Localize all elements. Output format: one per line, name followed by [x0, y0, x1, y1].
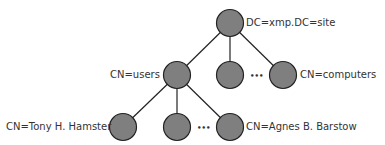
node-root	[217, 10, 244, 37]
ellipsis-level2: •••	[250, 70, 263, 82]
label-tony: CN=Tony H. Hamster	[6, 121, 111, 133]
node-users	[164, 62, 191, 89]
node-mid3	[164, 114, 191, 141]
ellipsis-level3: •••	[197, 122, 210, 134]
label-users: CN=users	[110, 69, 160, 81]
label-computers: CN=computers	[300, 69, 376, 81]
node-tony	[110, 114, 137, 141]
node-agnes	[217, 114, 244, 141]
node-mid2	[217, 62, 244, 89]
label-agnes: CN=Agnes B. Barstow	[246, 121, 357, 133]
node-computers	[270, 62, 297, 89]
label-root: DC=xmp.DC=site	[246, 17, 335, 29]
